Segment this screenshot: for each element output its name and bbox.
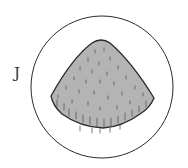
microscope-view-illustration <box>0 0 188 168</box>
figure-label: J <box>14 64 20 82</box>
specimen-shape <box>51 40 154 133</box>
specimen-figure: J <box>0 0 188 168</box>
